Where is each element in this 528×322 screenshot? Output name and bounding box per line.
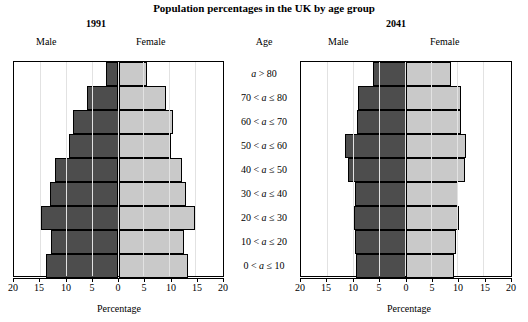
bar-row (301, 230, 511, 254)
panel-2041: 2041 Male Female 201510505101520 Percent… (290, 0, 528, 322)
gridline (92, 62, 93, 276)
bar-female (119, 206, 195, 230)
x-axis-title-1991: Percentage (0, 303, 238, 314)
gridline (431, 62, 432, 276)
chart-page: Population percentages in the UK by age … (0, 0, 528, 322)
bar-male (345, 134, 406, 158)
axis-tick-label: 5 (366, 282, 392, 293)
year-label-2041: 2041 (290, 18, 528, 29)
bar-male (50, 182, 118, 206)
bar-female (119, 230, 184, 254)
axis-tick-label: 20 (0, 282, 26, 293)
gridline (195, 62, 196, 276)
bar-male (51, 230, 118, 254)
bar-male (355, 182, 406, 206)
gridline (457, 62, 458, 276)
axis-tick-label: 10 (340, 282, 366, 293)
bar-female (406, 254, 454, 278)
bar-female (406, 62, 451, 86)
axis-tick-label: 5 (131, 282, 157, 293)
bar-row (301, 62, 511, 86)
bar-row (301, 182, 511, 206)
axis-tick-label: 20 (210, 282, 236, 293)
plot-area-2041 (300, 61, 512, 277)
gridline (169, 62, 170, 276)
bar-male (355, 230, 406, 254)
gridline (118, 62, 119, 276)
axis-tick-label: 20 (498, 282, 524, 293)
x-axis-1991: 201510505101520 (13, 278, 224, 300)
bar-male (357, 110, 406, 134)
bar-rows-2041 (301, 62, 511, 276)
bar-row (301, 206, 511, 230)
x-axis-title-2041: Percentage (290, 303, 528, 314)
bar-male (41, 206, 119, 230)
male-label-1991: Male (36, 36, 57, 47)
age-column: Age a > 8070 < a ≤ 8060 < a ≤ 7050 < a ≤… (238, 0, 290, 322)
male-label-2041: Male (328, 36, 349, 47)
x-axis-2041: 201510505101520 (300, 278, 512, 300)
gridline (143, 62, 144, 276)
axis-tick-label: 5 (419, 282, 445, 293)
bar-row (301, 158, 511, 182)
axis-tick-label: 15 (26, 282, 52, 293)
bar-male (46, 254, 118, 278)
bar-male (358, 86, 406, 110)
bar-female (119, 254, 188, 278)
bar-male (356, 254, 406, 278)
gridline (405, 62, 406, 276)
gridline (327, 62, 328, 276)
bar-male (55, 158, 118, 182)
axis-tick-label: 5 (79, 282, 105, 293)
bar-row (301, 254, 511, 278)
bar-male (106, 62, 118, 86)
plot-area-1991 (13, 61, 224, 277)
gridline (40, 62, 41, 276)
axis-tick-label: 15 (184, 282, 210, 293)
axis-tick-label: 15 (313, 282, 339, 293)
axis-tick-label: 10 (158, 282, 184, 293)
bar-female (406, 86, 461, 110)
bar-row (301, 110, 511, 134)
bar-male (373, 62, 406, 86)
gridline (353, 62, 354, 276)
gridline (379, 62, 380, 276)
bar-male (354, 206, 407, 230)
panel-1991: 1991 Male Female 201510505101520 Percent… (0, 0, 238, 322)
axis-tick-label: 0 (105, 282, 131, 293)
bar-row (301, 134, 511, 158)
bar-female (119, 158, 182, 182)
axis-tick-label: 15 (472, 282, 498, 293)
bar-female (406, 182, 458, 206)
female-label-2041: Female (430, 36, 459, 47)
axis-tick-label: 10 (445, 282, 471, 293)
axis-tick-label: 20 (287, 282, 313, 293)
axis-tick-label: 10 (53, 282, 79, 293)
bar-male (73, 110, 119, 134)
bar-female (119, 110, 173, 134)
bar-female (119, 134, 171, 158)
gridline (66, 62, 67, 276)
bar-male (69, 134, 119, 158)
axis-line (13, 278, 224, 279)
bar-female (406, 110, 461, 134)
axis-line (300, 278, 512, 279)
age-column-header: Age (238, 36, 290, 47)
gridline (483, 62, 484, 276)
bar-female (119, 182, 186, 206)
bar-row (301, 86, 511, 110)
female-label-1991: Female (136, 36, 165, 47)
axis-tick-label: 0 (393, 282, 419, 293)
bar-male (348, 158, 406, 182)
bar-female (406, 206, 459, 230)
